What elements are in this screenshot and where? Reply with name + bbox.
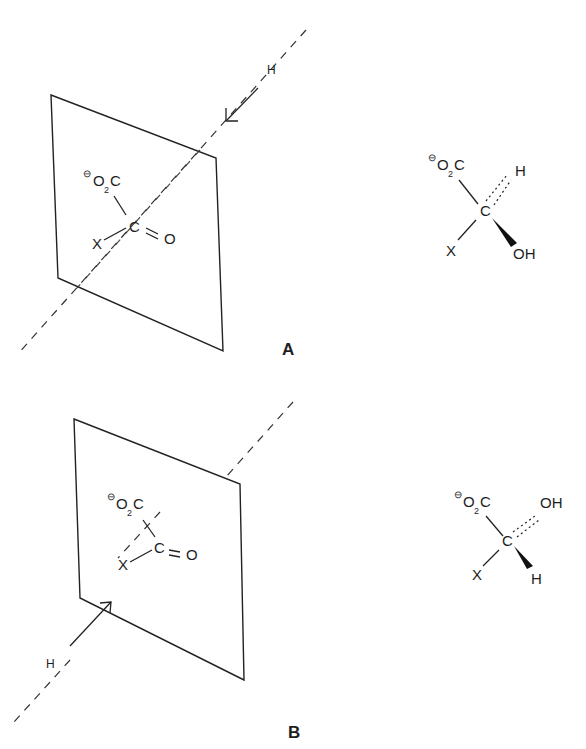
svg-text:O: O (93, 172, 105, 189)
svg-text:C: C (133, 495, 144, 512)
svg-text:C: C (480, 493, 491, 510)
attack-axis-b-back (225, 402, 293, 478)
svg-text:X: X (472, 566, 482, 583)
planar-substrate-a: ⊖ O 2 C C O X (83, 168, 176, 252)
charge-icon: ⊖ (83, 168, 91, 179)
svg-text:2: 2 (127, 508, 132, 518)
product-a: ⊖ O 2 C C H OH X (428, 152, 536, 262)
panel-label-a: A (282, 340, 294, 359)
svg-text:H: H (515, 162, 526, 179)
svg-text:2: 2 (448, 169, 453, 179)
svg-text:OH: OH (540, 494, 563, 511)
panel-a: H ⊖ O 2 C C O X ⊖ O 2 C C H (17, 30, 536, 359)
svg-text:OH: OH (513, 245, 536, 262)
svg-text:O: O (116, 495, 128, 512)
hydride-arrow-a (226, 88, 258, 121)
planar-substrate-b: ⊖ O 2 C C O X (107, 491, 198, 573)
svg-text:2: 2 (474, 506, 479, 516)
svg-text:O: O (164, 230, 176, 247)
hydride-label-b: H (46, 657, 55, 671)
svg-text:O: O (463, 493, 475, 510)
svg-text:O: O (437, 156, 449, 173)
charge-icon: ⊖ (107, 491, 115, 502)
panel-label-b: B (288, 723, 300, 742)
hydride-label-a: H (267, 63, 276, 77)
product-b: ⊖ O 2 C C OH H X (454, 489, 563, 587)
svg-text:C: C (154, 539, 165, 556)
panel-b: H ⊖ O 2 C C O X ⊖ O 2 C C OH (14, 402, 563, 742)
charge-icon: ⊖ (428, 152, 436, 163)
attack-axis-a (17, 30, 306, 355)
svg-text:O: O (186, 546, 198, 563)
svg-text:C: C (454, 156, 465, 173)
svg-text:C: C (110, 172, 121, 189)
charge-icon: ⊖ (454, 489, 462, 500)
svg-text:X: X (118, 556, 128, 573)
wedge-bond (492, 218, 517, 247)
svg-text:X: X (446, 242, 456, 259)
attack-axis-b-front (14, 660, 70, 722)
svg-text:X: X (92, 235, 102, 252)
svg-text:C: C (480, 202, 491, 219)
stereochemistry-figure: H ⊖ O 2 C C O X ⊖ O 2 C C H (0, 0, 586, 749)
svg-text:H: H (531, 570, 542, 587)
hydride-arrow-b (70, 602, 111, 646)
svg-text:C: C (502, 532, 513, 549)
svg-text:C: C (129, 218, 140, 235)
wedge-bond (514, 546, 533, 569)
svg-text:2: 2 (104, 185, 109, 195)
